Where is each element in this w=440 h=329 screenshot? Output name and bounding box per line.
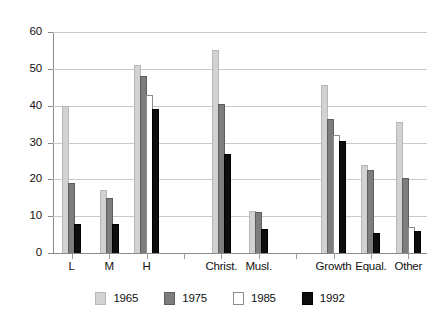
x-axis-label-m: M — [104, 261, 113, 273]
x-axis-tick-mark — [221, 253, 222, 259]
y-axis-tick-mark — [48, 216, 53, 217]
y-axis-tick-label: 20 — [30, 174, 42, 186]
y-axis-tick-mark — [48, 143, 53, 144]
y-axis-tick-mark — [48, 106, 53, 107]
bar-other-1992 — [414, 231, 421, 253]
x-axis-label-l: L — [69, 261, 75, 273]
legend-item-1985: 1985 — [233, 292, 276, 305]
grid-line — [53, 32, 427, 33]
x-axis-label-growth: Growth — [316, 261, 352, 273]
bar-musl-1992 — [261, 229, 268, 253]
legend-label-1985: 1985 — [251, 293, 276, 305]
x-axis-label-musl: Musl. — [245, 261, 271, 273]
x-axis-tick-mark — [371, 253, 372, 259]
cluster-separator-tick — [184, 253, 185, 259]
legend-item-1965: 1965 — [95, 292, 138, 305]
legend-swatch-1992-icon — [302, 292, 313, 305]
bar-h-1992 — [152, 109, 159, 253]
legend-swatch-1975-icon — [164, 292, 175, 305]
grid-line — [53, 143, 427, 144]
x-axis-tick-mark — [408, 253, 409, 259]
x-axis-tick-mark — [109, 253, 110, 259]
x-axis-label-christ: Christ. — [205, 261, 237, 273]
y-axis-tick-mark — [48, 179, 53, 180]
y-axis-tick-label: 60 — [30, 26, 42, 38]
y-axis-tick-mark — [48, 69, 53, 70]
legend-swatch-1965-icon — [95, 292, 106, 305]
legend-swatch-1985-icon — [233, 292, 244, 305]
x-axis-label-h: H — [142, 261, 150, 273]
bar-l-1992 — [74, 224, 81, 253]
legend-label-1965: 1965 — [113, 293, 138, 305]
x-axis-tick-mark — [147, 253, 148, 259]
x-axis-label-other: Other — [394, 261, 422, 273]
grid-line — [53, 106, 427, 107]
bar-christ-1992 — [224, 154, 231, 253]
y-axis-tick-label: 40 — [30, 100, 42, 112]
grouped-bar-chart: 0102030405060 LMHChrist.Musl.GrowthEqual… — [0, 0, 440, 329]
x-axis-label-equal: Equal. — [355, 261, 386, 273]
y-axis-tick-label: 50 — [30, 63, 42, 75]
x-axis-tick-mark — [72, 253, 73, 259]
bar-equal-1992 — [373, 233, 380, 253]
legend-item-1975: 1975 — [164, 292, 207, 305]
bar-growth-1992 — [339, 141, 346, 253]
y-axis-tick-label: 0 — [36, 247, 42, 259]
grid-line — [53, 69, 427, 70]
legend-label-1975: 1975 — [182, 293, 207, 305]
chart-legend: 1965197519851992 — [0, 292, 440, 305]
y-axis-tick-label: 30 — [30, 137, 42, 149]
legend-item-1992: 1992 — [302, 292, 345, 305]
bar-m-1992 — [112, 224, 119, 253]
x-axis-tick-mark — [334, 253, 335, 259]
plot-area — [53, 32, 427, 253]
legend-label-1992: 1992 — [320, 293, 345, 305]
y-axis-tick-mark — [48, 253, 53, 254]
y-axis-tick-label: 10 — [30, 210, 42, 222]
x-axis-tick-mark — [259, 253, 260, 259]
y-axis-tick-mark — [48, 32, 53, 33]
cluster-separator-tick — [296, 253, 297, 259]
